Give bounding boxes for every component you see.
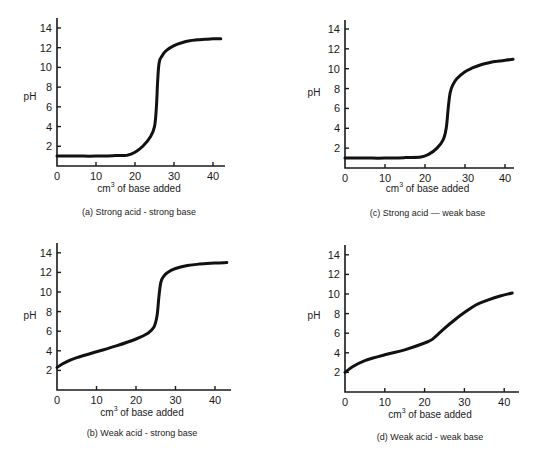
x-axis-label: cm3 of base added [100, 405, 183, 418]
y-tick-label: 10 [40, 61, 52, 73]
chart-b: 2468101214010203040pHcm3 of base added(b… [24, 243, 231, 438]
chart-caption: (c) Strong acid — weak base [370, 208, 486, 218]
y-tick-label: 8 [334, 308, 340, 320]
y-tick-label: 8 [334, 83, 340, 95]
y-tick-label: 12 [40, 266, 52, 278]
y-tick-label: 14 [328, 23, 340, 35]
y-axis-label: pH [308, 87, 321, 98]
x-tick-label: 30 [168, 170, 180, 182]
y-tick-label: 14 [40, 22, 52, 34]
y-tick-label: 10 [328, 63, 340, 75]
x-tick-label: 20 [130, 394, 142, 406]
chart-caption: (b) Weak acid - strong base [87, 428, 197, 438]
y-tick-label: 10 [328, 288, 340, 300]
y-tick-label: 12 [328, 43, 340, 55]
y-axis-label: pH [24, 310, 37, 321]
y-tick-label: 14 [40, 247, 52, 259]
y-tick-label: 6 [46, 101, 52, 113]
y-tick-label: 4 [334, 122, 340, 134]
x-axis-label: cm3 of base added [97, 181, 180, 194]
x-tick-label: 10 [379, 396, 391, 408]
y-tick-label: 6 [46, 325, 52, 337]
titration-curve [345, 59, 513, 158]
x-tick-label: 40 [499, 172, 511, 184]
x-tick-label: 10 [90, 170, 102, 182]
y-tick-label: 12 [40, 42, 52, 54]
axes [345, 245, 519, 392]
y-axis-label: pH [308, 310, 321, 321]
x-tick-label: 0 [54, 394, 60, 406]
x-tick-label: 40 [498, 396, 510, 408]
titration-curves-figure: 2468101214010203040pHcm3 of base added(a… [0, 0, 535, 457]
y-tick-label: 2 [46, 364, 52, 376]
x-axis-label: cm3 of base added [386, 181, 469, 194]
y-tick-label: 2 [334, 366, 340, 378]
x-tick-label: 10 [90, 394, 102, 406]
x-tick-label: 0 [342, 396, 348, 408]
y-tick-label: 2 [46, 140, 52, 152]
y-tick-label: 4 [46, 121, 52, 133]
x-tick-label: 40 [207, 170, 219, 182]
x-tick-label: 20 [129, 170, 141, 182]
chart-c: 246810121401020. 3040pHcm3 of base added… [308, 20, 514, 218]
titration-curve [345, 293, 512, 372]
x-tick-label: 30 [458, 396, 470, 408]
y-tick-label: 4 [46, 345, 52, 357]
chart-caption: (d) Weak acid - weak base [377, 432, 483, 442]
y-tick-label: 2 [334, 142, 340, 154]
x-axis-label: cm3 of base added [388, 407, 471, 420]
x-tick-label: 0 [342, 172, 348, 184]
y-tick-label: 12 [328, 268, 340, 280]
chart-caption: (a) Strong acid - strong base [82, 207, 196, 217]
titration-curve [57, 39, 221, 156]
y-tick-label: 6 [334, 327, 340, 339]
titration-curve [57, 263, 227, 368]
y-tick-label: 10 [40, 286, 52, 298]
y-tick-label: 8 [46, 306, 52, 318]
x-tick-label: 40 [209, 394, 221, 406]
x-tick-label: 20 [418, 396, 430, 408]
x-tick-label: 30 [169, 394, 181, 406]
y-axis-label: pH [24, 91, 37, 102]
y-tick-label: 6 [334, 102, 340, 114]
y-tick-label: 14 [328, 249, 340, 261]
axes [345, 20, 514, 168]
chart-a: 2468101214010203040pHcm3 of base added(a… [24, 18, 225, 217]
y-tick-label: 4 [334, 347, 340, 359]
x-tick-label: 0 [54, 170, 60, 182]
y-tick-label: 8 [46, 81, 52, 93]
chart-d: 2468101214010203040pHcm3 of base added(d… [308, 245, 519, 442]
